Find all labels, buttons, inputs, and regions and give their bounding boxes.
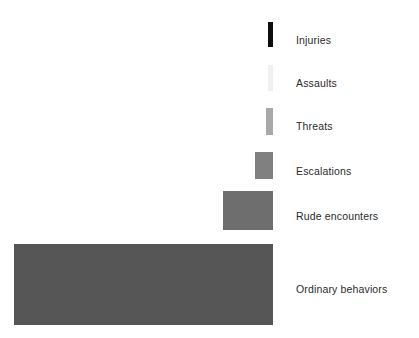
bar-injuries: [268, 22, 273, 47]
bar-escalations: [255, 152, 273, 179]
bar-label-injuries: Injuries: [296, 35, 331, 46]
bar-label-ordinary-behaviors: Ordinary behaviors: [296, 284, 387, 295]
bar-label-rude-encounters: Rude encounters: [296, 211, 378, 222]
bar-threats: [266, 108, 273, 135]
bar-label-assaults: Assaults: [296, 78, 337, 89]
bar-label-escalations: Escalations: [296, 166, 351, 177]
bar-ordinary-behaviors: [14, 244, 273, 325]
bar-label-threats: Threats: [296, 121, 333, 132]
behavior-frequency-chart: InjuriesAssaultsThreatsEscalationsRude e…: [0, 0, 419, 338]
bar-rude-encounters: [223, 191, 273, 230]
chart-plot-area: InjuriesAssaultsThreatsEscalationsRude e…: [0, 0, 419, 338]
bar-assaults: [268, 65, 273, 91]
